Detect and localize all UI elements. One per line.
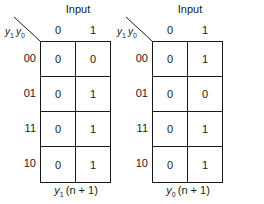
kmap-cell: 1 <box>188 147 222 182</box>
kmap-cell: 0 <box>76 42 110 76</box>
kmap-grid: 0 0 0 1 0 1 0 1 <box>40 41 111 183</box>
kmap-cell: 0 <box>41 42 76 76</box>
column-header-1: 1 <box>187 24 223 36</box>
input-label: Input <box>42 3 114 15</box>
row-header: 01 <box>14 87 36 99</box>
kmap-cell: 0 <box>41 112 76 146</box>
column-header-0: 0 <box>152 24 188 36</box>
row-header: 01 <box>126 87 148 99</box>
kmap-row: 0 0 <box>41 42 110 77</box>
row-header: 11 <box>126 122 148 134</box>
kmap-row: 0 1 <box>153 42 222 77</box>
kmap-cell: 1 <box>76 112 110 146</box>
kmap-cell: 0 <box>188 77 222 111</box>
kmap-row: 0 1 <box>41 147 110 182</box>
kmap-caption: y0 (n + 1) <box>152 184 224 198</box>
kmap-cell: 1 <box>188 112 222 146</box>
kmap-caption: y1 (n + 1) <box>40 184 112 198</box>
kmap-cell: 0 <box>153 112 188 146</box>
kmap-cell: 0 <box>153 42 188 76</box>
row-header: 10 <box>126 157 148 169</box>
kmap-cell: 1 <box>76 77 110 111</box>
column-header-0: 0 <box>40 24 76 36</box>
row-variable-label: y1 y0 <box>117 26 137 39</box>
row-header: 10 <box>14 157 36 169</box>
input-label: Input <box>154 3 226 15</box>
kmap-cell: 0 <box>153 147 188 182</box>
row-header: 11 <box>14 122 36 134</box>
kmap-cell: 1 <box>188 42 222 76</box>
kmap-grid: 0 1 0 0 0 1 0 1 <box>152 41 223 183</box>
kmap-cell: 1 <box>76 147 110 182</box>
kmap-cell: 0 <box>41 147 76 182</box>
kmap-cell: 0 <box>153 77 188 111</box>
kmap-row: 0 1 <box>153 147 222 182</box>
column-header-1: 1 <box>75 24 111 36</box>
kmap-row: 0 1 <box>41 112 110 147</box>
kmap-row: 0 1 <box>41 77 110 112</box>
row-header: 00 <box>126 52 148 64</box>
kmap-row: 0 1 <box>153 112 222 147</box>
kmap-y0: Input y1 y0 0 1 00 01 11 10 0 1 0 0 0 1 … <box>112 0 244 204</box>
kmap-cell: 0 <box>41 77 76 111</box>
row-header: 00 <box>14 52 36 64</box>
kmap-row: 0 0 <box>153 77 222 112</box>
row-variable-label: y1 y0 <box>5 26 25 39</box>
